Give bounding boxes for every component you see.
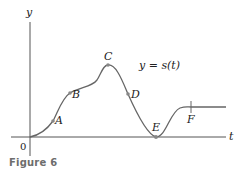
- point-d-marker: [126, 92, 130, 96]
- point-f-label: F: [186, 113, 195, 126]
- figure-canvas: y t 0 A B C D E F y = s(t): [0, 0, 241, 178]
- y-axis-label: y: [25, 6, 33, 19]
- point-a-label: A: [54, 114, 63, 127]
- t-axis-label: t: [229, 130, 234, 143]
- point-d-label: D: [130, 88, 140, 101]
- point-e-label: E: [151, 121, 160, 134]
- point-b-label: B: [71, 88, 80, 101]
- point-e-marker: [154, 135, 158, 139]
- figure-caption: Figure 6: [9, 157, 57, 168]
- point-c-marker: [106, 63, 110, 67]
- equation-label: y = s(t): [138, 59, 180, 72]
- origin-label: 0: [20, 141, 26, 152]
- point-c-label: C: [104, 50, 113, 63]
